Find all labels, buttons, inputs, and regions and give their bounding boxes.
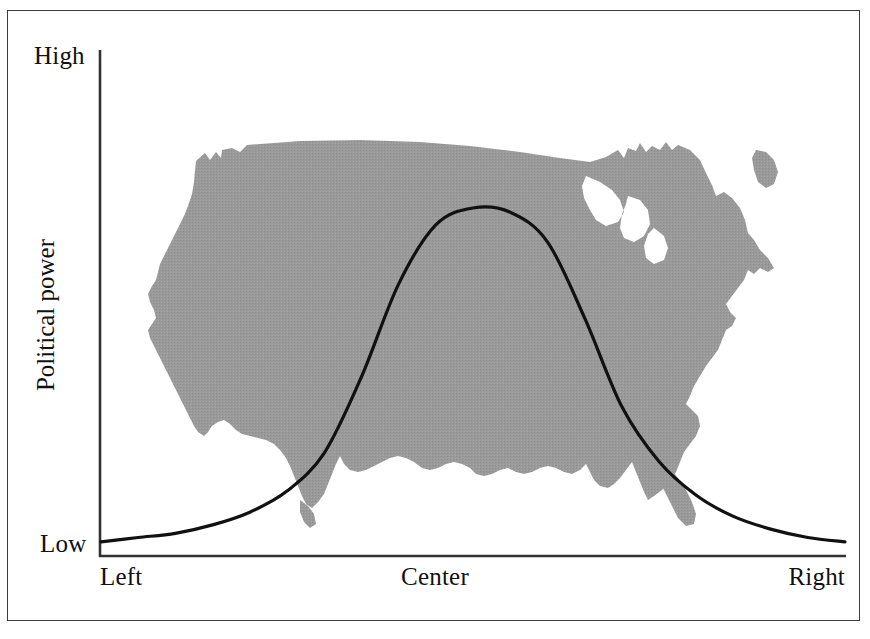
x-axis-tick-right: Right: [788, 563, 845, 591]
united-states-map-silhouette: [148, 140, 778, 528]
x-axis-tick-center: Center: [401, 563, 469, 591]
y-axis-title: Political power: [32, 239, 60, 391]
political-power-chart: [0, 0, 870, 639]
y-axis-tick-high: High: [34, 42, 85, 70]
x-axis-tick-left: Left: [100, 563, 142, 591]
figure-page: High Low Political power Left Center Rig…: [0, 0, 870, 639]
y-axis-tick-low: Low: [40, 530, 86, 558]
